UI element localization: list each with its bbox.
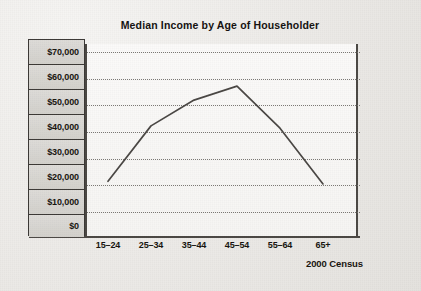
x-tick-label: 15–24 <box>84 240 132 250</box>
source-annotation: 2000 Census <box>306 258 363 269</box>
page-title: Median Income by Age of Householder <box>60 19 380 31</box>
x-tick-label: 35–44 <box>170 240 218 250</box>
y-tick-label: $50,000 <box>29 90 84 115</box>
y-tick-label: $70,000 <box>29 40 84 65</box>
scanned-page: Median Income by Age of Householder $70,… <box>0 0 421 291</box>
x-tick-label: 65+ <box>299 240 347 250</box>
x-tick-label: 45–54 <box>213 240 261 250</box>
gridline-20000 <box>87 185 360 186</box>
x-tick-label: 25–34 <box>127 240 175 250</box>
y-tick-label: $20,000 <box>29 165 84 190</box>
y-tick-label: $30,000 <box>29 140 84 165</box>
y-tick-label: $40,000 <box>29 115 84 140</box>
y-axis-label-column: $70,000 $60,000 $50,000 $40,000 $30,000 … <box>28 39 85 236</box>
plot-area <box>85 44 358 236</box>
y-tick-label: $60,000 <box>29 65 84 90</box>
gridline-70000 <box>87 52 360 53</box>
gridline-50000 <box>87 105 360 106</box>
gridline-30000 <box>87 159 360 160</box>
chart-figure: Median Income by Age of Householder $70,… <box>0 0 421 291</box>
gridline-40000 <box>87 132 360 133</box>
gridline-10000 <box>87 212 360 213</box>
y-tick-label: $0 <box>29 215 84 237</box>
gridline-60000 <box>87 79 360 80</box>
y-tick-label: $10,000 <box>29 190 84 215</box>
x-tick-label: 55–64 <box>256 240 304 250</box>
